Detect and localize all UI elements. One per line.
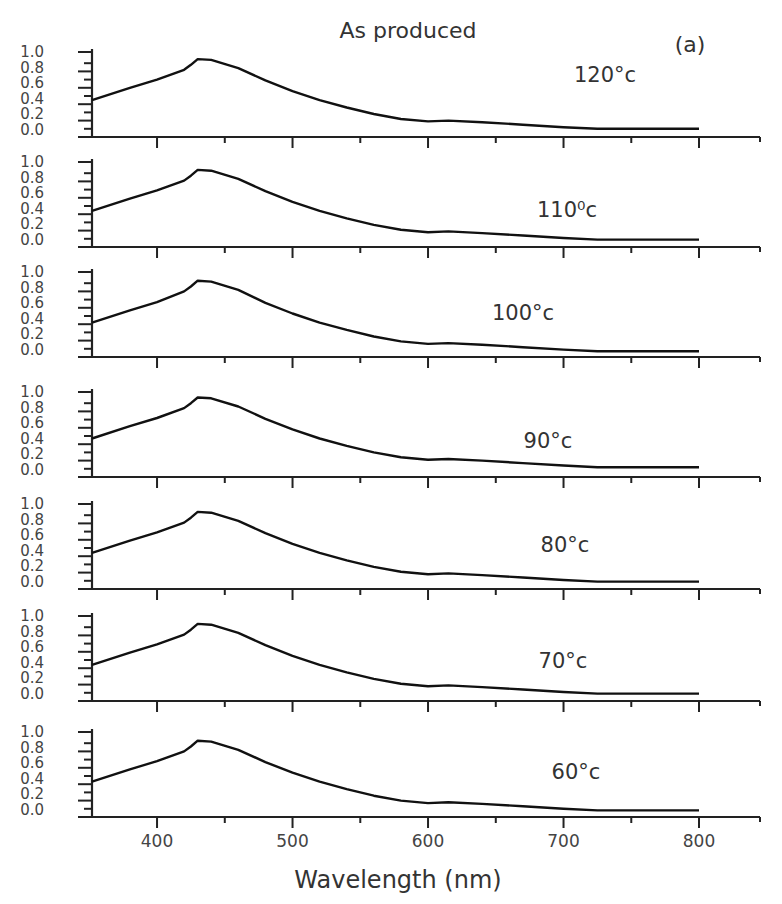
x-tick-label: 500 bbox=[276, 831, 308, 851]
chart-title: As produced bbox=[340, 18, 477, 43]
x-tick-label: 600 bbox=[412, 831, 444, 851]
y-tick-label: 0.0 bbox=[20, 573, 44, 591]
x-tick-label: 800 bbox=[683, 831, 715, 851]
x-tick-labels: 400500600700800 bbox=[141, 831, 715, 851]
spectrum-line bbox=[92, 281, 699, 352]
y-tick-label: 0.0 bbox=[20, 801, 44, 819]
x-axis-label: Wavelength (nm) bbox=[294, 866, 501, 894]
panel-90c: 1.00.80.60.40.20.090°c bbox=[20, 383, 760, 488]
spectrum-line bbox=[92, 512, 699, 582]
panel-110c: 1.00.80.60.40.20.0110⁰c bbox=[20, 153, 760, 258]
y-tick-label: 0.0 bbox=[20, 461, 44, 479]
x-tick-label: 700 bbox=[547, 831, 579, 851]
panel-70c: 1.00.80.60.40.20.070°c bbox=[20, 607, 760, 712]
panel-temperature-label: 120°c bbox=[574, 63, 636, 87]
panels-group: 1.00.80.60.40.20.0120°c1.00.80.60.40.20.… bbox=[20, 43, 760, 828]
spectrum-line bbox=[92, 398, 699, 468]
panel-80c: 1.00.80.60.40.20.080°c bbox=[20, 495, 760, 600]
spectrum-line bbox=[92, 741, 699, 811]
y-tick-label: 0.0 bbox=[20, 685, 44, 703]
uv-vis-absorption-chart: As produced (a) 1.00.80.60.40.20.0120°c1… bbox=[0, 0, 782, 904]
panel-temperature-label: 90°c bbox=[524, 429, 573, 453]
panel-100c: 1.00.80.60.40.20.0100°c bbox=[20, 263, 760, 368]
x-tick-label: 400 bbox=[141, 831, 173, 851]
panel-temperature-label: 70°c bbox=[539, 649, 588, 673]
spectrum-line bbox=[92, 624, 699, 694]
y-tick-label: 0.0 bbox=[20, 121, 44, 139]
panel-temperature-label: 60°c bbox=[552, 760, 601, 784]
spectrum-line bbox=[92, 170, 699, 240]
panel-60c: 1.00.80.60.40.20.060°c bbox=[20, 723, 760, 828]
y-tick-label: 0.0 bbox=[20, 231, 44, 249]
panel-tag: (a) bbox=[675, 32, 706, 57]
panel-temperature-label: 100°c bbox=[492, 301, 554, 325]
y-tick-label: 0.0 bbox=[20, 341, 44, 359]
panel-120c: 1.00.80.60.40.20.0120°c bbox=[20, 43, 760, 148]
panel-temperature-label: 110⁰c bbox=[537, 198, 597, 222]
panel-temperature-label: 80°c bbox=[541, 533, 590, 557]
